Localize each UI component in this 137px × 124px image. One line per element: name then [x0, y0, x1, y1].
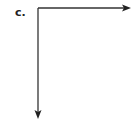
- axes-diagram: [0, 0, 137, 124]
